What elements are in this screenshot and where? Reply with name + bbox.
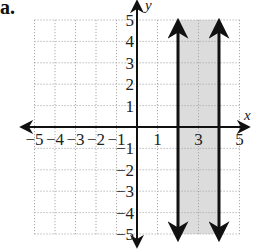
x-tick-label: 5 xyxy=(235,130,244,149)
coordinate-plane: xy −5−4−3−2−113554321−1−2−3−4−5 xyxy=(0,0,255,251)
y-tick-label: 4 xyxy=(126,32,135,51)
y-tick-label: −2 xyxy=(116,161,134,180)
x-axis-label: x xyxy=(243,107,251,123)
y-tick-label: 2 xyxy=(126,75,135,94)
y-tick-label: 3 xyxy=(126,54,135,73)
y-tick-label: −4 xyxy=(116,204,135,223)
y-tick-label: 1 xyxy=(126,97,135,116)
y-tick-label: −5 xyxy=(116,225,134,244)
x-tick-label: 3 xyxy=(194,130,203,149)
x-tick-label: −4 xyxy=(46,130,65,149)
y-tick-label: −1 xyxy=(116,139,134,158)
y-axis-label: y xyxy=(143,0,152,13)
y-tick-label: −3 xyxy=(116,182,134,201)
y-tick-label: 5 xyxy=(126,11,135,30)
x-tick-label: 1 xyxy=(153,130,162,149)
x-tick-label: −2 xyxy=(87,130,105,149)
x-tick-label: −5 xyxy=(25,130,43,149)
x-tick-label: −3 xyxy=(66,130,84,149)
